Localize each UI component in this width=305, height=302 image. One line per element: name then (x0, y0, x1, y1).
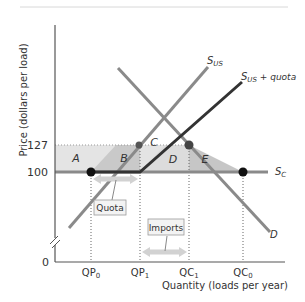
quota-diagram: Price (dollars per load) 127 100 0 QP0 Q… (0, 0, 305, 302)
sc-label: SC (275, 166, 286, 179)
region-b-label: B (120, 152, 128, 165)
x-axis-label: Quantity (loads per year) (162, 280, 288, 291)
sus-label: SUS (207, 55, 223, 68)
imports-pointer (165, 236, 167, 251)
region-e-label: E (202, 153, 209, 166)
region-c-label: C (150, 136, 158, 149)
x-tick-qc1: QC1 (179, 267, 198, 280)
x-tick-qp0: QP0 (82, 267, 100, 280)
point-qc0 (239, 168, 248, 177)
quota-pointer (112, 180, 116, 200)
sus-quota-label: SUS + quota (241, 71, 296, 84)
x-tick-qp1: QP1 (131, 267, 149, 280)
point-qp0 (87, 168, 96, 177)
region-a-label: A (71, 152, 80, 165)
point-qc1 (185, 141, 194, 150)
region-d-label: D (169, 153, 177, 166)
y-tick-0: 0 (42, 256, 49, 269)
point-qp1-127 (136, 142, 143, 149)
y-tick-100: 100 (27, 166, 48, 179)
imports-label: Imports (149, 223, 184, 233)
demand-label: D (270, 229, 278, 240)
region-e-fill (189, 145, 243, 172)
y-tick-127: 127 (27, 139, 48, 152)
quota-label: Quota (96, 203, 123, 213)
x-tick-qc0: QC0 (233, 267, 252, 280)
imports-arrow (142, 247, 187, 257)
